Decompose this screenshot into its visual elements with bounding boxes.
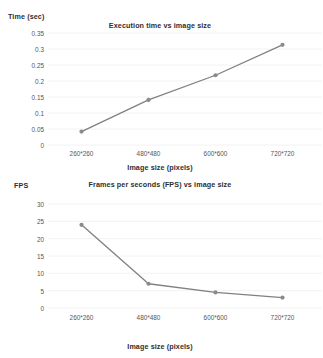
plot-area: 00.050.10.150.20.250.30.35260*260480*480… — [0, 0, 323, 180]
y-axis-tick-label: 0.15 — [10, 94, 44, 101]
y-axis-tick-label: 0.25 — [10, 62, 44, 69]
y-axis-tick-label: 0.1 — [10, 110, 44, 117]
y-axis-tick-label: 0.35 — [10, 30, 44, 37]
x-axis-tick-label: 260*260 — [70, 150, 94, 157]
chart-frames-per-second: FPS Frames per seconds (FPS) vs image si… — [0, 178, 323, 358]
data-point-marker — [213, 73, 217, 77]
data-series-line — [82, 225, 283, 298]
x-axis-tick-label: 480*480 — [137, 150, 161, 157]
y-axis-tick-label: 0 — [10, 305, 44, 312]
y-axis-tick-label: 0.2 — [10, 78, 44, 85]
plot-area: 051015202530260*260480*480600*600720*720 — [0, 178, 323, 358]
x-axis-tick-label: 260*260 — [70, 314, 94, 321]
data-point-marker — [146, 98, 150, 102]
data-point-marker — [79, 129, 83, 133]
data-series-line — [82, 45, 283, 132]
data-point-marker — [280, 296, 284, 300]
chart-execution-time: Time (sec) Execution time vs image size … — [0, 0, 323, 180]
y-axis-tick-label: 0.3 — [10, 46, 44, 53]
y-axis-tick-label: 30 — [10, 201, 44, 208]
y-axis-tick-label: 5 — [10, 287, 44, 294]
data-point-marker — [280, 43, 284, 47]
x-axis-tick-label: 720*720 — [271, 150, 295, 157]
x-axis-title: Image size (pixels) — [60, 342, 260, 351]
data-point-marker — [146, 282, 150, 286]
data-point-marker — [213, 290, 217, 294]
x-axis-tick-label: 600*600 — [204, 314, 228, 321]
y-axis-tick-label: 0.05 — [10, 126, 44, 133]
y-axis-tick-label: 25 — [10, 218, 44, 225]
y-axis-tick-label: 15 — [10, 253, 44, 260]
y-axis-tick-label: 0 — [10, 142, 44, 149]
y-axis-tick-label: 20 — [10, 235, 44, 242]
y-axis-tick-label: 10 — [10, 270, 44, 277]
x-axis-title: Image size (pixels) — [60, 163, 260, 172]
x-axis-tick-label: 600*600 — [204, 150, 228, 157]
x-axis-tick-label: 480*480 — [137, 314, 161, 321]
x-axis-tick-label: 720*720 — [271, 314, 295, 321]
data-point-marker — [79, 223, 83, 227]
line-chart-svg — [0, 178, 323, 358]
